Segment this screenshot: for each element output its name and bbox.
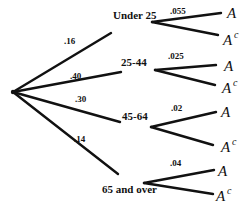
sub-branch-a-line: [151, 112, 216, 127]
complement-superscript: c: [233, 77, 238, 88]
branch-probability: .16: [64, 36, 76, 46]
outcome-a: A: [217, 163, 228, 179]
sub-branch-ac-line: [155, 70, 215, 85]
conditional-probability: .04: [170, 158, 182, 168]
sub-branch-a-line: [152, 13, 221, 22]
outcome-a: A: [226, 5, 237, 21]
branch-probability: .30: [75, 94, 87, 104]
age-group-label: 45-64: [122, 110, 148, 122]
sub-branch-a-line: [155, 65, 216, 70]
branch-line: [13, 92, 120, 122]
sub-branch-ac-line: [152, 22, 218, 35]
age-group-label: 25-44: [121, 56, 147, 68]
outcome-a-complement: A: [220, 139, 231, 155]
probability-tree: .16Under 25.055AAc.4025-44.025AAc.3045-6…: [0, 0, 245, 206]
branch-probability: .40: [70, 71, 82, 81]
outcome-a-complement: A: [221, 80, 232, 96]
age-group-label: Under 25: [113, 9, 157, 21]
outcome-a-complement: A: [222, 32, 233, 48]
complement-superscript: c: [227, 185, 232, 196]
outcome-a-complement: A: [215, 188, 226, 204]
outcome-a: A: [220, 104, 231, 120]
conditional-probability: .055: [170, 6, 186, 16]
conditional-probability: .02: [171, 103, 183, 113]
sub-branch-a-line: [144, 170, 214, 183]
complement-superscript: c: [232, 136, 237, 147]
sub-branch-ac-line: [151, 127, 213, 145]
complement-superscript: c: [234, 29, 239, 40]
conditional-probability: .025: [168, 51, 184, 61]
root-node: [11, 90, 15, 94]
branch-line: [13, 92, 118, 174]
branch-probability: .14: [74, 134, 86, 144]
outcome-a: A: [223, 58, 234, 74]
